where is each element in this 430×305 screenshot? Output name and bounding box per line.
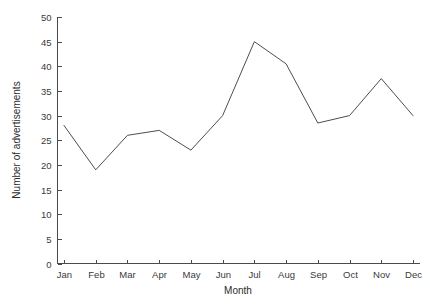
x-tick-label: Feb (88, 269, 104, 280)
x-tick-label: Apr (152, 269, 167, 280)
chart-figure: 05101520253035404550 JanFebMarAprMayJunJ… (0, 0, 430, 305)
x-tick-label: Jan (57, 269, 72, 280)
x-tick-label: Oct (343, 269, 358, 280)
x-tick-label: Nov (373, 269, 390, 280)
x-tick-label: Jun (216, 269, 231, 280)
chart-background (0, 0, 430, 305)
x-tick-label: Aug (278, 269, 295, 280)
y-tick-label: 10 (41, 209, 52, 220)
y-tick-label: 40 (41, 61, 52, 72)
x-tick-label: Jul (248, 269, 260, 280)
y-axis-title: Number of advertisements (11, 81, 22, 198)
y-tick-label: 50 (41, 12, 52, 23)
line-chart: 05101520253035404550 JanFebMarAprMayJunJ… (0, 0, 430, 305)
y-tick-label: 5 (46, 234, 51, 245)
y-tick-label: 20 (41, 160, 52, 171)
y-tick-label: 30 (41, 111, 52, 122)
x-tick-label: Dec (405, 269, 422, 280)
x-axis-title: Month (224, 285, 252, 296)
y-tick-label: 0 (46, 259, 51, 270)
x-tick-label: Sep (310, 269, 327, 280)
y-tick-label: 45 (41, 37, 52, 48)
y-tick-label: 15 (41, 185, 52, 196)
y-tick-label: 25 (41, 135, 52, 146)
y-tick-label: 35 (41, 86, 52, 97)
x-tick-label: May (183, 269, 201, 280)
x-tick-label: Mar (119, 269, 135, 280)
